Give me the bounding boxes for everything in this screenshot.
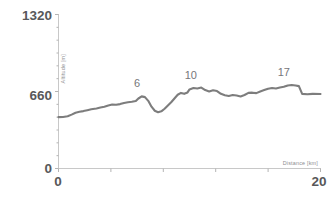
- elevation-profile-chart: 1320 660 0 0 20 Altitude [m] Distance [k…: [0, 0, 334, 208]
- x-axis-label-start: 0: [54, 174, 62, 189]
- x-axis-label-end: 20: [311, 174, 326, 189]
- chart-canvas: 1320 660 0 0 20 Altitude [m] Distance [k…: [0, 0, 334, 208]
- y-axis-title: Altitude [m]: [60, 54, 66, 84]
- profile-point-labels: 61017: [134, 66, 290, 89]
- profile-point-label: 10: [185, 69, 197, 81]
- altitude-profile-line: [59, 85, 321, 117]
- y-axis-label-top: 1320: [22, 8, 52, 23]
- x-axis-title: Distance [km]: [283, 160, 319, 166]
- y-axis-label-mid: 660: [29, 88, 52, 103]
- y-axis-label-zero: 0: [44, 161, 52, 176]
- profile-point-label: 17: [278, 66, 290, 78]
- x-axis-ticks: [59, 169, 321, 173]
- y-axis-major-ticks: [55, 15, 59, 169]
- profile-point-label: 6: [134, 77, 140, 89]
